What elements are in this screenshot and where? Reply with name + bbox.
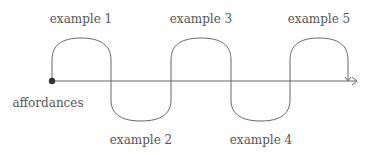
example-2-label: example 2 [110, 133, 172, 147]
example-5-label: example 5 [288, 12, 350, 26]
wave-curve [52, 38, 348, 121]
start-dot-icon [49, 78, 55, 84]
affordances-wave-diagram: affordances example 1 example 2 example … [0, 0, 377, 155]
affordances-label: affordances [12, 96, 83, 110]
example-3-label: example 3 [170, 12, 232, 26]
example-4-label: example 4 [230, 133, 292, 147]
example-1-label: example 1 [50, 12, 112, 26]
